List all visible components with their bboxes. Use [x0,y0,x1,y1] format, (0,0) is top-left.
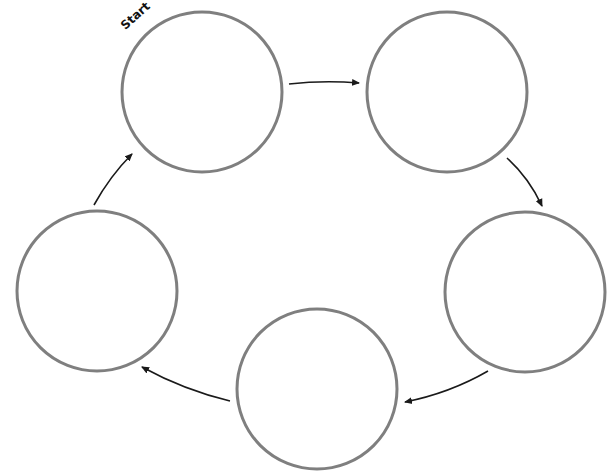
cycle-node-1[interactable] [122,12,282,172]
cycle-node-4[interactable] [237,309,397,469]
cycle-node-2[interactable] [367,12,527,172]
cycle-node-3[interactable] [445,212,605,372]
arrow-1-to-2 [289,82,359,84]
cycle-diagram [0,0,613,476]
nodes [17,12,605,469]
arrow-3-to-4 [405,371,488,402]
arrow-2-to-3 [507,158,542,206]
cycle-node-5[interactable] [17,211,177,371]
arrow-4-to-5 [142,367,230,401]
arrow-5-to-1 [94,154,132,205]
